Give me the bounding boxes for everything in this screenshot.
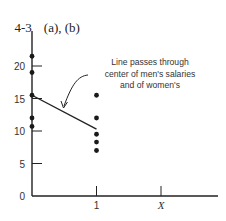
annotation-line-2: center of men's salaries xyxy=(105,69,195,79)
data-point xyxy=(30,93,35,98)
x-tick-label: X xyxy=(157,199,166,211)
data-points xyxy=(30,54,99,153)
y-ticks: 05101520 xyxy=(14,61,42,202)
y-tick-label: 20 xyxy=(14,61,26,72)
annotation-arrow-icon xyxy=(64,75,88,106)
data-point xyxy=(94,116,99,121)
x-tick-label: 1 xyxy=(94,200,100,211)
annotation-line-1: Line passes through xyxy=(111,57,189,67)
data-point xyxy=(94,140,99,145)
x-ticks: 1X xyxy=(94,186,166,211)
data-point xyxy=(30,116,35,121)
annotation: Line passes through center of men's sala… xyxy=(61,57,195,108)
y-tick-label: 10 xyxy=(14,126,26,137)
scatter-plot: 05101520 1X Line passes through center o… xyxy=(0,0,226,221)
data-point xyxy=(94,148,99,153)
data-point xyxy=(30,70,35,75)
data-point xyxy=(30,124,35,129)
data-point xyxy=(94,132,99,137)
y-tick-label: 5 xyxy=(19,159,25,170)
data-point xyxy=(94,93,99,98)
annotation-line-3: and of women's xyxy=(120,80,180,90)
data-point xyxy=(30,54,35,59)
fitted-line xyxy=(32,95,97,129)
y-tick-label: 15 xyxy=(14,94,26,105)
y-tick-label: 0 xyxy=(19,191,25,202)
